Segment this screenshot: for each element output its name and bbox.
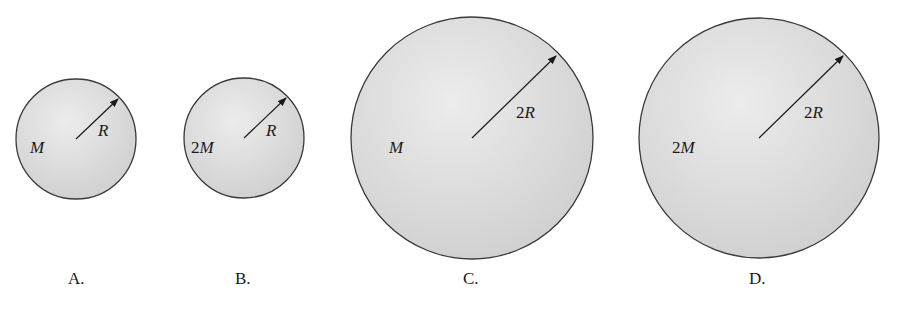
sphere-b-mass-symbol: M [199,138,215,157]
spheres-diagram: M R A. 2M R B. M 2R C. 2M [0,0,904,312]
sphere-d-mass-label: 2M [672,138,696,157]
sphere-a-radius-label: R [97,121,109,140]
option-a-label: A. [68,269,85,288]
option-c-label: C. [463,269,479,288]
sphere-a: M R A. [16,79,136,288]
sphere-a-radius-symbol: R [97,121,109,140]
sphere-a-mass-label: M [29,138,45,157]
sphere-d: 2M 2R D. [639,18,879,288]
sphere-b-radius-label: R [265,121,277,140]
sphere-c-mass-symbol: M [388,138,404,157]
sphere-d-radius-coef: 2 [804,103,813,122]
option-d-label: D. [749,269,766,288]
option-b-label: B. [235,269,251,288]
sphere-c-mass-label: M [388,138,404,157]
sphere-c: M 2R C. [351,17,593,288]
sphere-d-mass-coef: 2 [672,138,681,157]
sphere-c-radius-label: 2R [516,103,536,122]
sphere-d-radius-symbol: R [812,103,824,122]
sphere-c-radius-symbol: R [524,103,536,122]
sphere-c-radius-coef: 2 [516,103,525,122]
sphere-a-mass-symbol: M [29,138,45,157]
sphere-b-radius-symbol: R [265,121,277,140]
sphere-b: 2M R B. [184,78,304,288]
sphere-d-radius-label: 2R [804,103,824,122]
sphere-d-mass-symbol: M [680,138,696,157]
sphere-b-mass-label: 2M [191,138,215,157]
sphere-b-mass-coef: 2 [191,138,200,157]
